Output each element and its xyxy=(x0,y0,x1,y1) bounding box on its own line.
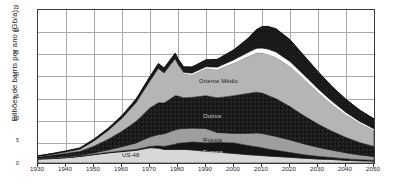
y-tick-25: 25 xyxy=(0,50,19,55)
series-label-oriente-medio: Oriente Médio xyxy=(199,79,238,85)
y-tick-10: 10 xyxy=(0,116,19,121)
gridline-v-2050 xyxy=(374,10,375,163)
y-tick-5: 5 xyxy=(0,138,19,143)
y-tick-15: 15 xyxy=(0,94,19,99)
y-tick-20: 20 xyxy=(0,72,19,77)
y-tick-30: 30 xyxy=(0,28,19,33)
series-label-russia: Rússia xyxy=(203,138,222,144)
series-label-us48: US-48 xyxy=(122,153,139,159)
y-tick-35: 35 xyxy=(0,5,19,10)
peak-oil-stacked-area-figure: Bilhões de barris por ano (Gb/a) 0 5 10 … xyxy=(0,0,398,188)
series-label-europa: Europa xyxy=(203,150,223,156)
series-label-outros: Outros xyxy=(203,114,222,120)
x-tick-2050: 2050 xyxy=(356,166,390,172)
plot-area: Oriente Médio Outros Rússia Europa US-48 xyxy=(37,9,375,164)
y-tick-0: 0 xyxy=(0,161,19,166)
